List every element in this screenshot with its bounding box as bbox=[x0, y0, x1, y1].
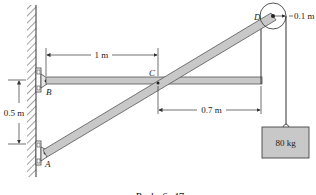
dimension-0-5m: 0.5 m bbox=[4, 80, 26, 144]
member-ad bbox=[43, 13, 276, 157]
load-box: 80 kg bbox=[262, 124, 309, 158]
pin-c bbox=[157, 82, 160, 85]
figure-caption: Prob. 6–47 bbox=[136, 190, 185, 195]
label-b: B bbox=[46, 87, 52, 97]
dimension-0-1m: 0.1 m bbox=[275, 11, 315, 21]
dimension-0-7m: 0.7 m bbox=[158, 86, 261, 115]
wall bbox=[27, 5, 36, 177]
label-c: C bbox=[149, 68, 156, 78]
dim-label-0-7m: 0.7 m bbox=[201, 105, 222, 115]
dim-label-0-1m: 0.1 m bbox=[294, 11, 315, 21]
label-d: D bbox=[253, 12, 261, 22]
frame-diagram: 80 kg 1 m 0.7 m 0.5 m 0.1 m B A C D Prob… bbox=[0, 0, 316, 195]
dim-label-0-5m: 0.5 m bbox=[4, 108, 25, 118]
dimension-1m: 1 m bbox=[46, 48, 158, 76]
load-mass-label: 80 kg bbox=[275, 138, 296, 148]
dim-label-1m: 1 m bbox=[95, 50, 109, 60]
label-a: A bbox=[44, 159, 51, 169]
